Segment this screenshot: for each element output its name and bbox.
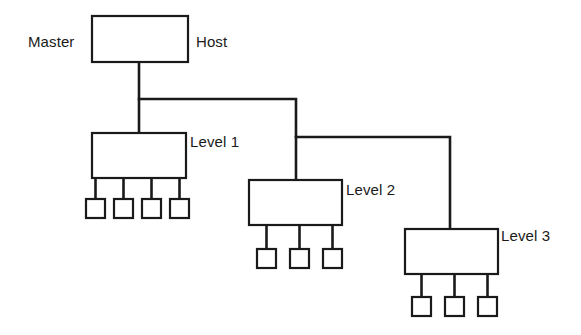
level-3-box[interactable] bbox=[405, 229, 498, 274]
level-2-leaf-box-2[interactable] bbox=[290, 249, 309, 268]
level-1-leaf-box-1[interactable] bbox=[86, 199, 105, 218]
level-2-leaf-box-3[interactable] bbox=[323, 249, 342, 268]
level-1-label: Level 1 bbox=[190, 134, 239, 149]
level-2-box[interactable] bbox=[249, 180, 342, 225]
level-2-label: Level 2 bbox=[346, 182, 395, 197]
level-1-leaf-box-3[interactable] bbox=[142, 199, 161, 218]
level-1-box[interactable] bbox=[92, 133, 186, 178]
level-3-leaf-box-1[interactable] bbox=[412, 297, 431, 316]
level-1-leaf-box-2[interactable] bbox=[114, 199, 133, 218]
network-topology-diagram: Master Host Level 1 Level 2 Level 3 bbox=[0, 0, 581, 335]
diagram-canvas bbox=[0, 0, 581, 335]
level-2-leaf-box-1[interactable] bbox=[257, 249, 276, 268]
level-1-leaf-box-4[interactable] bbox=[170, 199, 189, 218]
host-label: Host bbox=[196, 34, 227, 49]
master-host-box[interactable] bbox=[92, 16, 188, 62]
level-3-leaf-box-2[interactable] bbox=[445, 297, 464, 316]
level-3-leaf-box-3[interactable] bbox=[478, 297, 497, 316]
level-3-label: Level 3 bbox=[501, 228, 550, 243]
master-label: Master bbox=[28, 34, 74, 49]
